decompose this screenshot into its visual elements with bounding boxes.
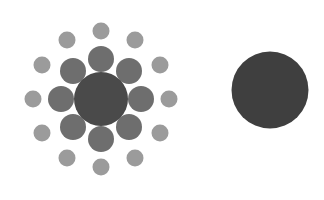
inner-inducer-circle: [88, 126, 114, 152]
left-target-circle: [74, 72, 128, 126]
outer-inducer-circle: [93, 159, 110, 176]
outer-inducer-circle: [59, 32, 76, 49]
inner-inducer-circle: [48, 86, 74, 112]
right-figure: [232, 52, 309, 129]
inner-inducer-circle: [88, 46, 114, 72]
outer-inducer-circle: [59, 150, 76, 167]
outer-inducer-circle: [25, 91, 42, 108]
outer-inducer-circle: [127, 150, 144, 167]
outer-inducer-circle: [93, 23, 110, 40]
outer-inducer-circle: [152, 125, 169, 142]
outer-inducer-circle: [34, 57, 51, 74]
outer-inducer-circle: [161, 91, 178, 108]
illusion-canvas: [0, 0, 324, 200]
inner-inducer-circle: [128, 86, 154, 112]
illusion-stage: [0, 0, 324, 200]
outer-inducer-circle: [152, 57, 169, 74]
outer-inducer-circle: [34, 125, 51, 142]
right-target-circle: [232, 52, 309, 129]
outer-inducer-circle: [127, 32, 144, 49]
